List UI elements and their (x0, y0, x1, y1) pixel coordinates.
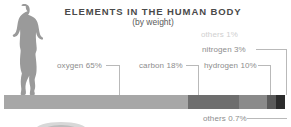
leader-line-oxygen-vertical (119, 65, 120, 95)
stacked-bar-chart (4, 95, 287, 109)
leader-line-oxygen-horizontal (106, 65, 120, 66)
bar-segment-others (276, 95, 285, 109)
callout-others-top-label: others 1% (201, 30, 238, 39)
human-silhouette-icon (4, 2, 48, 96)
bar-segment-oxygen (4, 95, 188, 109)
callout-oxygen-label: oxygen 65% (57, 61, 102, 70)
chart-title: ELEMENTS IN THE HUMAN BODY (58, 6, 248, 17)
callout-carbon-label: carbon 18% (139, 61, 183, 70)
bar-segment-nitrogen (267, 95, 275, 109)
leader-line-nitrogen-horizontal (256, 49, 287, 50)
secondary-figure-partial (30, 116, 92, 127)
leader-line-carbon-vertical (198, 65, 199, 95)
callout-nitrogen-label: nitrogen 3% (202, 45, 246, 54)
callout-others-bottom-label: others 0.7% (203, 114, 247, 123)
callout-hydrogen-label: hydrogen 10% (204, 61, 257, 70)
chart-subtitle: (by weight) (58, 17, 248, 27)
infographic-root: ELEMENTS IN THE HUMAN BODY (by weight) o… (0, 0, 291, 127)
bar-segment-carbon (188, 95, 239, 109)
bar-segment-hydrogen (239, 95, 267, 109)
leader-line-others-bottom-horizontal (247, 118, 287, 119)
leader-line-nitrogen-vertical (286, 49, 287, 95)
leader-line-hydrogen-vertical (270, 65, 271, 95)
